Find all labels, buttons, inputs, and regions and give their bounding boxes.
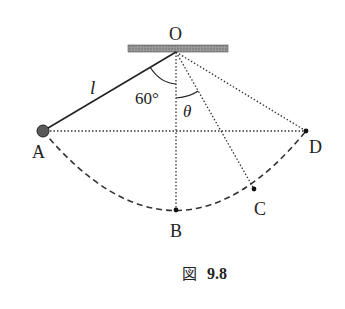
bob-a — [37, 125, 49, 137]
label-d: D — [309, 137, 322, 157]
point-b-dot — [174, 208, 179, 213]
caption-prefix: 図 — [182, 266, 197, 282]
caption-number: 9.8 — [207, 265, 227, 282]
label-o: O — [169, 24, 182, 44]
point-d-dot — [304, 129, 309, 134]
dotted-od — [176, 52, 306, 131]
ceiling-bar — [128, 45, 228, 52]
label-a: A — [32, 142, 45, 162]
angle-60-arc — [150, 67, 176, 84]
swing-arc — [43, 131, 306, 211]
label-c: C — [254, 199, 266, 219]
label-l: l — [90, 77, 95, 98]
label-theta: θ — [183, 102, 191, 121]
label-b: B — [170, 221, 182, 241]
label-60: 60° — [135, 89, 159, 108]
point-c-dot — [252, 187, 257, 192]
pendulum-diagram: O l 60° θ A D C B 図 9.8 — [0, 0, 345, 309]
angle-theta-arc — [176, 91, 198, 98]
